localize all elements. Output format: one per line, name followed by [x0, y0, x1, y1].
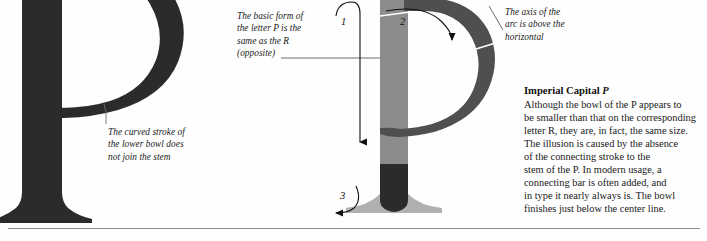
callout-lower-bowl-line-2: the lower bowl does	[108, 138, 185, 150]
callout-axis: The axis of the arc is above the horizon…	[505, 6, 565, 43]
description-line-3: letter R, they are, in fact, the same si…	[524, 124, 704, 137]
description-line-1: Although the bowl of the P appears to	[524, 98, 704, 111]
imperial-capital-p-specimen	[0, 0, 242, 230]
description-line-7: connecting bar is often added, and	[524, 176, 704, 189]
description-title-text: Imperial Capital	[524, 85, 602, 96]
description-title-letter: P	[602, 85, 608, 96]
description-line-2: be smaller than that on the correspondin…	[524, 111, 704, 124]
callout-lower-bowl-line-3: not join the stem	[108, 151, 185, 163]
callout-basic-form-line-1: The basic form of	[237, 10, 303, 22]
description-body: Although the bowl of the P appears to be…	[524, 98, 704, 216]
description-title: Imperial Capital P	[524, 84, 704, 97]
diagram-stem-foot	[380, 164, 408, 212]
description-line-6: stem of the P. In modern usage, a	[524, 163, 704, 176]
callout-axis-line-2: arc is above the	[505, 18, 565, 30]
construction-diagram-p	[330, 0, 530, 231]
callout-basic-form: The basic form of the letter P is the sa…	[237, 10, 303, 60]
description-line-5: of the connecting stroke to the	[524, 150, 704, 163]
description-line-8: in type it nearly always is. The bowl	[524, 189, 704, 202]
description-block: Imperial Capital P Although the bowl of …	[524, 84, 704, 215]
page-canvas: The curved stroke of the lower bowl does…	[0, 0, 707, 241]
diagram-stem	[380, 0, 408, 184]
callout-axis-line-1: The axis of the	[505, 6, 565, 18]
callout-basic-form-line-4: (opposite)	[237, 47, 303, 59]
specimen-glyph-shape	[0, 0, 184, 223]
stroke-order-number-3: 3	[340, 190, 345, 201]
callout-basic-form-line-3: same as the R	[237, 35, 303, 47]
description-line-4: The illusion is caused by the absence	[524, 137, 704, 150]
description-line-9: finishes just below the center line.	[524, 202, 704, 215]
callout-lower-bowl-line-1: The curved stroke of	[108, 126, 185, 138]
footer-divider-rule	[8, 228, 700, 229]
stroke-order-number-2: 2	[400, 16, 405, 27]
callout-axis-line-3: horizontal	[505, 31, 565, 43]
callout-basic-form-line-2: the letter P is the	[237, 22, 303, 34]
stroke-order-number-1: 1	[341, 16, 346, 27]
callout-lower-bowl: The curved stroke of the lower bowl does…	[108, 126, 185, 163]
